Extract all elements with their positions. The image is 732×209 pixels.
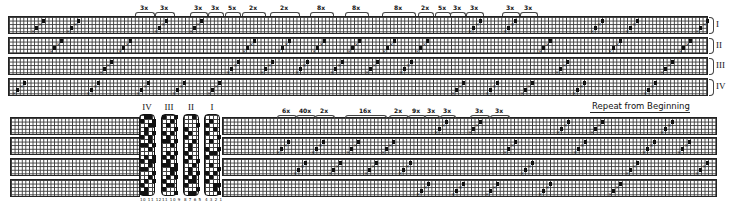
row-label: I	[716, 19, 719, 29]
tieup-filled-cell	[166, 175, 170, 179]
repeat-brace	[208, 12, 224, 16]
cross-mark-icon: ×	[458, 186, 462, 190]
filled-cell	[110, 60, 114, 64]
filled-cell	[218, 81, 222, 85]
threading-run: ××	[416, 182, 430, 196]
threading-run: ××	[364, 161, 378, 175]
filled-cell	[357, 140, 361, 144]
filled-cell	[42, 19, 46, 23]
tieup-filled-cell	[196, 187, 200, 191]
repeat-count: 3x	[470, 107, 488, 114]
filled-cell	[489, 88, 493, 92]
repeat-count: 3x	[208, 4, 222, 11]
filled-cell	[706, 19, 710, 23]
tieup-filled-cell	[140, 135, 144, 139]
filled-cell	[358, 39, 362, 43]
threading-row-left	[10, 158, 140, 176]
cross-mark-icon: ×	[538, 50, 542, 54]
threading-run: ××	[625, 19, 639, 33]
filled-cell	[77, 19, 81, 23]
cross-mark-icon: ×	[335, 165, 339, 169]
repeat-brace	[470, 115, 490, 119]
cross-mark-icon: ×	[318, 144, 322, 148]
cross-mark-icon: ×	[118, 50, 122, 54]
filled-cell	[629, 26, 633, 30]
cross-mark-icon: ×	[249, 43, 253, 47]
cross-mark-icon: ×	[233, 64, 237, 68]
cross-mark-icon: ×	[337, 64, 341, 68]
threading-run: ××	[136, 81, 150, 95]
cross-mark-icon: ×	[702, 23, 706, 27]
cross-mark-icon: ×	[267, 64, 271, 68]
repeat-brace	[315, 115, 335, 119]
tieup-filled-cell	[170, 155, 174, 159]
cross-mark-icon: ×	[625, 30, 629, 34]
filled-cell	[386, 46, 390, 50]
cross-mark-icon: ×	[398, 172, 402, 176]
filled-cell	[612, 189, 616, 193]
filled-cell	[549, 182, 553, 186]
filled-cell	[689, 39, 693, 43]
filled-cell	[594, 26, 598, 30]
tieup-numbers: 8 7 6 5	[184, 197, 202, 202]
filled-cell	[445, 120, 449, 124]
cross-mark-icon: ×	[319, 43, 323, 47]
filled-cell	[90, 88, 94, 92]
filled-cell	[584, 140, 588, 144]
threading-row-left	[10, 137, 140, 155]
cross-mark-icon: ×	[86, 92, 90, 96]
cross-mark-icon: ×	[615, 43, 619, 47]
threading-run: ××	[398, 161, 412, 175]
tieup-filled-cell	[192, 163, 196, 167]
cross-mark-icon: ×	[389, 43, 393, 47]
threading-run: ××	[172, 81, 186, 95]
repeat-brace	[424, 115, 440, 119]
tieup-filled-cell	[192, 115, 196, 119]
threading-run: ××	[99, 60, 113, 74]
cross-mark-icon: ×	[172, 92, 176, 96]
cross-mark-icon: ×	[353, 144, 357, 148]
tieup-block	[139, 114, 155, 196]
repeat-brace	[440, 115, 456, 119]
repeat-count: 2x	[270, 4, 298, 11]
tieup-block	[183, 114, 199, 196]
repeat-count: 2x	[418, 4, 432, 11]
tieup-filled-cell	[192, 179, 196, 183]
threading-run: ××	[189, 19, 203, 33]
threading-run: ××	[468, 19, 482, 33]
filled-cell	[237, 60, 241, 64]
cross-mark-icon: ×	[545, 186, 549, 190]
filled-cell	[420, 189, 424, 193]
filled-cell	[176, 88, 180, 92]
threading-run: ××	[49, 39, 63, 53]
cross-mark-icon: ×	[346, 151, 350, 155]
repeat-brace	[450, 12, 466, 16]
filled-cell	[576, 88, 580, 92]
cross-mark-icon: ×	[468, 30, 472, 34]
threading-run: ××	[154, 19, 168, 33]
filled-cell	[288, 39, 292, 43]
cross-mark-icon: ×	[354, 43, 358, 47]
cross-mark-icon: ×	[660, 71, 664, 75]
threading-run: ××	[555, 60, 569, 74]
filled-cell	[264, 67, 268, 71]
threading-run: ××	[538, 39, 552, 53]
filled-cell	[409, 161, 413, 165]
threading-run: ××	[276, 140, 290, 154]
threading-run: ××	[485, 182, 499, 196]
filled-cell	[339, 161, 343, 165]
cross-mark-icon: ×	[388, 144, 392, 148]
filled-cell	[403, 67, 407, 71]
filled-cell	[577, 147, 581, 151]
row-brace	[709, 38, 714, 54]
cross-mark-icon: ×	[573, 151, 577, 155]
cross-mark-icon: ×	[625, 172, 629, 176]
cross-mark-icon: ×	[510, 23, 514, 27]
cross-mark-icon: ×	[154, 30, 158, 34]
repeat-count: 5x	[225, 4, 239, 11]
filled-cell	[514, 19, 518, 23]
cross-mark-icon: ×	[423, 186, 427, 190]
tieup-filled-cell	[174, 191, 178, 195]
tieup-filled-cell	[162, 115, 166, 119]
filled-cell	[299, 67, 303, 71]
